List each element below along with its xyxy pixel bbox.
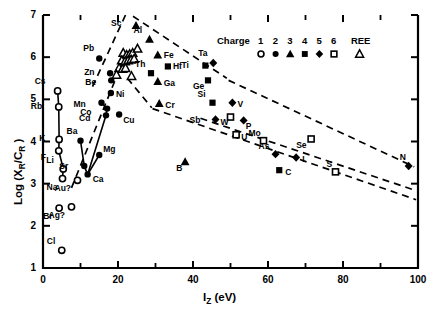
x-tick-label: 80 bbox=[328, 274, 358, 285]
y-tick-label: 5 bbox=[22, 93, 36, 104]
point-label-cr: Cr bbox=[165, 101, 174, 110]
data-point-ge bbox=[205, 77, 211, 83]
legend-symbol-ree bbox=[356, 50, 364, 57]
data-point-al bbox=[145, 35, 154, 43]
point-label-pb: Pb bbox=[83, 44, 94, 53]
point-label-zn: Zn bbox=[84, 68, 94, 77]
ree-marker bbox=[127, 72, 135, 80]
legend-label-5: 5 bbox=[317, 35, 322, 46]
point-label-fe: Fe bbox=[164, 51, 174, 60]
point-label-k: K bbox=[39, 134, 45, 143]
legend-label-1: 1 bbox=[258, 35, 263, 46]
point-label-mo: Mo bbox=[249, 129, 261, 138]
legend-label-ree: REE bbox=[351, 35, 371, 46]
point-label-i: I bbox=[302, 155, 304, 164]
point-label-ba: Ba bbox=[67, 127, 78, 136]
y-tick-label: 6 bbox=[22, 51, 36, 62]
data-point-fe bbox=[153, 50, 162, 58]
y-tick-label: 2 bbox=[22, 220, 36, 231]
data-point-si bbox=[209, 100, 215, 106]
legend-symbol-4 bbox=[302, 51, 308, 57]
data-point-mn bbox=[98, 100, 104, 106]
point-label-si: Si bbox=[198, 90, 206, 99]
data-point-k bbox=[56, 136, 62, 142]
data-point-au bbox=[74, 177, 80, 183]
legend-label-4: 4 bbox=[302, 35, 307, 46]
point-label-mg: Mg bbox=[103, 145, 115, 154]
point-label-ag: Ag? bbox=[49, 211, 66, 220]
point-label-cs: Cs bbox=[35, 77, 46, 86]
mid-boundary bbox=[127, 78, 151, 108]
data-point-zn bbox=[107, 70, 113, 76]
point-label-cl: Cl bbox=[47, 237, 56, 246]
data-point-u bbox=[233, 132, 239, 138]
x-axis-title: IZ (eV) bbox=[203, 291, 236, 306]
point-label-v: V bbox=[237, 100, 243, 109]
point-label-ga: Ga bbox=[164, 79, 175, 88]
data-point-ca bbox=[84, 171, 90, 177]
point-label-s: S bbox=[327, 160, 333, 169]
legend-symbols bbox=[258, 50, 364, 58]
point-label-sc: Sc bbox=[111, 19, 121, 28]
point-label-u: U bbox=[241, 133, 247, 142]
data-point-sr bbox=[81, 163, 87, 169]
point-label-al: Al bbox=[134, 26, 143, 35]
legend-label-6: 6 bbox=[331, 35, 336, 46]
data-point-ba bbox=[77, 137, 83, 143]
point-label-cu: Cu bbox=[123, 116, 134, 125]
scatter-plot-canvas bbox=[0, 0, 434, 314]
y-tick-label: 7 bbox=[22, 9, 36, 20]
x-tick-label: 20 bbox=[103, 274, 133, 285]
data-point-rb bbox=[56, 104, 62, 110]
x-tick-label: 40 bbox=[178, 274, 208, 285]
data-point-s bbox=[333, 169, 339, 175]
point-label-w: W bbox=[221, 118, 229, 127]
outer-right-boundary bbox=[229, 80, 415, 166]
data-point-cl bbox=[59, 247, 65, 253]
legend-symbol-1 bbox=[258, 51, 264, 57]
data-point-ni bbox=[108, 90, 114, 96]
x-tick-label: 100 bbox=[403, 274, 433, 285]
data-point-ti bbox=[202, 63, 208, 69]
data-point-v bbox=[228, 99, 236, 107]
point-label-au: Au? bbox=[55, 184, 72, 193]
legend-symbol-3 bbox=[286, 50, 294, 58]
point-label-be: Be bbox=[85, 78, 96, 87]
point-label-cd: Cd bbox=[79, 114, 90, 123]
point-label-ni: Ni bbox=[116, 90, 125, 99]
point-label-sr: Sr bbox=[59, 162, 68, 171]
data-point-se bbox=[308, 136, 314, 142]
point-label-sb: Sb bbox=[190, 116, 201, 125]
data-point-i bbox=[292, 153, 300, 161]
data-point-hf bbox=[165, 63, 171, 69]
figure-root: CsRbKFLiNaBrAg?ClAu?BaSrCaMgPbZnBeNiMnCo… bbox=[0, 0, 434, 314]
point-label-ca: Ca bbox=[93, 175, 104, 184]
outer-lower-boundary bbox=[201, 118, 415, 190]
point-label-li: Li bbox=[46, 156, 54, 165]
point-label-f: F bbox=[41, 153, 46, 162]
point-label-se: Se bbox=[296, 141, 306, 150]
data-point-ag bbox=[68, 204, 74, 210]
x-tick-label: 0 bbox=[28, 274, 58, 285]
data-point-mg bbox=[96, 152, 102, 158]
point-label-c: C bbox=[285, 168, 291, 177]
data-point-cs bbox=[55, 88, 61, 94]
legend-symbol-5 bbox=[316, 50, 324, 58]
y-axis-title: Log (XR/CR ) bbox=[12, 139, 27, 205]
data-point-ga bbox=[153, 77, 162, 85]
point-label-n: N bbox=[400, 153, 406, 162]
x-tick-label: 60 bbox=[253, 274, 283, 285]
legend-label-3: 3 bbox=[287, 35, 292, 46]
legend-symbol-6 bbox=[331, 51, 337, 57]
data-point-f bbox=[56, 148, 62, 154]
data-point-cd bbox=[103, 112, 109, 118]
legend-symbol-2 bbox=[273, 51, 279, 57]
y-tick-label: 1 bbox=[22, 262, 36, 273]
legend-label-2: 2 bbox=[273, 35, 278, 46]
data-point-be bbox=[108, 77, 114, 83]
point-label-as: As bbox=[259, 142, 270, 151]
data-point-co bbox=[104, 105, 110, 111]
data-point-cr bbox=[155, 99, 164, 107]
data-point-ta bbox=[209, 59, 217, 67]
data-point-cu bbox=[116, 111, 122, 117]
